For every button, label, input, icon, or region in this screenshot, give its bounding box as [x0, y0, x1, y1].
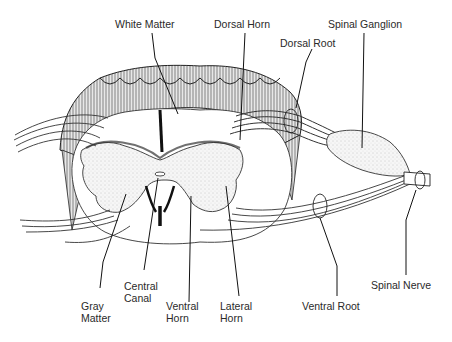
leader-ventral-root	[320, 218, 337, 296]
label-lateral-horn-line1: Lateral	[220, 300, 252, 312]
label-lateral-horn: Lateral Horn	[220, 300, 252, 324]
label-gray-matter: Gray Matter	[81, 300, 111, 324]
label-lateral-horn-line2: Horn	[220, 312, 252, 324]
label-central-canal: Central Canal	[124, 280, 158, 304]
label-white-matter: White Matter	[115, 18, 175, 30]
ventral-root-marker	[313, 194, 327, 218]
label-ventral-root: Ventral Root	[302, 300, 360, 312]
label-central-canal-line1: Central	[124, 280, 158, 292]
spinal-nerve-shape	[404, 172, 430, 186]
label-spinal-nerve: Spinal Nerve	[371, 279, 431, 291]
label-central-canal-line2: Canal	[124, 292, 158, 304]
label-ventral-horn: Ventral Horn	[166, 300, 199, 324]
label-gray-matter-line1: Gray	[81, 300, 111, 312]
central-canal-shape	[155, 172, 165, 176]
label-ventral-horn-line2: Horn	[166, 312, 199, 324]
label-dorsal-horn: Dorsal Horn	[214, 18, 270, 30]
label-spinal-ganglion: Spinal Ganglion	[328, 18, 402, 30]
label-gray-matter-line2: Matter	[81, 312, 111, 324]
leader-dorsal-root	[296, 49, 312, 108]
dorsal-median-septum	[160, 110, 162, 152]
label-dorsal-root: Dorsal Root	[280, 37, 335, 49]
label-ventral-horn-line1: Ventral	[166, 300, 199, 312]
spinal-ganglion-shape	[327, 130, 410, 176]
leader-spinal-nerve	[406, 190, 416, 275]
